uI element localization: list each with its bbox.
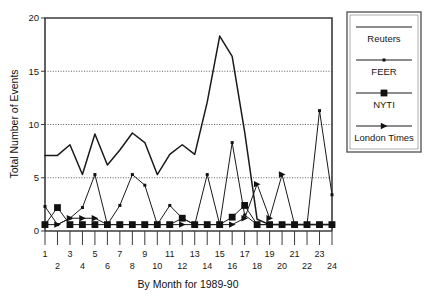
marker-1-5 xyxy=(93,173,96,176)
marker-1-23 xyxy=(318,109,321,112)
marker-1-9 xyxy=(143,184,146,187)
y-tick-label-15: 15 xyxy=(28,66,39,77)
x-tick-label-8: 8 xyxy=(130,261,135,271)
x-tick-label-18: 18 xyxy=(252,261,262,271)
marker-1-11 xyxy=(168,204,171,207)
marker-2-20 xyxy=(279,221,286,228)
x-tick-label-14: 14 xyxy=(202,261,212,271)
chart-figure: 05101520 1234567891011121314151617181920… xyxy=(0,0,426,297)
y-tick-label-0: 0 xyxy=(34,225,39,236)
x-tick-label-5: 5 xyxy=(92,249,97,259)
x-tick-label-19: 19 xyxy=(265,249,275,259)
marker-1-7 xyxy=(118,204,121,207)
legend-label-nyti: NYTI xyxy=(373,99,395,110)
marker-2-5 xyxy=(92,221,99,228)
x-tick-label-24: 24 xyxy=(327,261,337,271)
marker-2-19 xyxy=(266,221,273,228)
x-tick-label-20: 20 xyxy=(277,261,287,271)
x-axis-title: By Month for 1989-90 xyxy=(138,278,239,290)
marker-1-1 xyxy=(44,205,47,208)
x-tick-label-2: 2 xyxy=(55,261,60,271)
x-tick-label-1: 1 xyxy=(42,249,47,259)
y-tick-label-10: 10 xyxy=(28,119,39,130)
legend-label-feer: FEER xyxy=(371,66,396,77)
x-tick-label-13: 13 xyxy=(190,249,200,259)
x-tick-label-23: 23 xyxy=(315,249,325,259)
x-tick-label-6: 6 xyxy=(105,261,110,271)
x-tick-label-22: 22 xyxy=(302,261,312,271)
marker-2-12 xyxy=(179,215,186,222)
x-tick-label-12: 12 xyxy=(177,261,187,271)
legend-entry-london-times[interactable]: London Times xyxy=(354,123,414,143)
x-tick-label-11: 11 xyxy=(165,249,174,259)
marker-1-4 xyxy=(81,206,84,209)
legend: ReutersFEERNYTILondon Times xyxy=(347,12,421,152)
marker-2-16 xyxy=(229,214,236,221)
marker-2-4 xyxy=(79,221,86,228)
x-tick-label-9: 9 xyxy=(142,249,147,259)
line-chart-svg: 05101520 1234567891011121314151617181920… xyxy=(0,0,426,297)
x-tick-label-15: 15 xyxy=(215,249,225,259)
x-tick-label-16: 16 xyxy=(227,261,237,271)
x-tick-label-21: 21 xyxy=(290,249,300,259)
marker-1-24 xyxy=(331,193,334,196)
legend-marker-square-icon xyxy=(381,90,388,97)
x-tick-label-3: 3 xyxy=(67,249,72,259)
x-tick-label-10: 10 xyxy=(152,261,162,271)
marker-1-16 xyxy=(231,141,234,144)
x-tick-label-4: 4 xyxy=(80,261,85,271)
marker-1-14 xyxy=(206,173,209,176)
y-tick-label-20: 20 xyxy=(28,12,39,23)
marker-2-17 xyxy=(241,202,248,209)
y-axis-title: Total Number of Events xyxy=(8,69,20,178)
marker-2-2 xyxy=(54,204,61,211)
legend-marker-dot-icon xyxy=(383,59,386,62)
marker-2-3 xyxy=(67,221,74,228)
y-tick-label-5: 5 xyxy=(34,172,39,183)
x-tick-label-17: 17 xyxy=(240,249,250,259)
marker-2-18 xyxy=(254,221,261,228)
legend-label-london-times: London Times xyxy=(354,132,414,143)
x-tick-label-7: 7 xyxy=(117,249,122,259)
marker-1-8 xyxy=(131,173,134,176)
legend-label-reuters: Reuters xyxy=(367,33,401,44)
